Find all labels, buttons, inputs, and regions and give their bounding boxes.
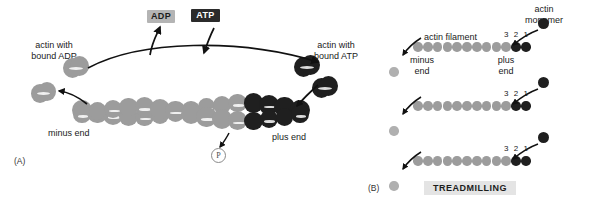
filament-subunit [413, 42, 423, 52]
filament-subunit [462, 42, 472, 52]
filament-subunit [443, 101, 453, 111]
panel-a-tag: (A) [14, 156, 25, 166]
arrow-to-adp [150, 27, 160, 55]
subunit-groove [109, 110, 120, 113]
filament-subunit [492, 101, 502, 111]
treadmilling-label: TREADMILLING [424, 181, 516, 195]
released-actin-monomer [389, 67, 399, 77]
filament-subunit [521, 156, 531, 166]
label-actin-filament: actin filament [424, 32, 477, 43]
released-actin-monomer [389, 181, 399, 191]
filament-subunit [501, 101, 511, 111]
arrow-phosphate-release [220, 133, 229, 147]
subunit-groove [233, 104, 245, 107]
subunit-number: 2 [512, 30, 520, 39]
filament-subunit [413, 156, 423, 166]
actin-subunit [73, 105, 90, 122]
label-plus-end-a: plus end [272, 132, 306, 143]
filament-subunit [492, 156, 502, 166]
subunit-number: 2 [512, 89, 520, 98]
subunit-groove [296, 115, 307, 118]
filament-subunit [511, 42, 521, 52]
filament-subunit [501, 42, 511, 52]
filament-subunit [433, 156, 443, 166]
subunit-number: 3 [502, 144, 510, 153]
actin-treadmilling-figure: (A) ADP ATP actin withbound ADP actin wi… [0, 0, 595, 208]
filament-subunit [472, 156, 482, 166]
filament-subunit [501, 156, 511, 166]
actin-subunit [260, 110, 278, 128]
filament-subunit [472, 42, 482, 52]
filament-subunit [423, 101, 433, 111]
incoming-actin-monomer [538, 77, 549, 88]
filament-subunit [482, 42, 492, 52]
subunit-number: 3 [502, 30, 510, 39]
incoming-actin-monomer [538, 18, 549, 29]
filament-subunit [433, 42, 443, 52]
filament-subunit [482, 156, 492, 166]
filament-subunit [433, 101, 443, 111]
phosphate-circle: P [211, 148, 226, 163]
subunit-number: 3 [502, 89, 510, 98]
arrow-monomer-cycle-right [88, 45, 318, 68]
filament-subunit [443, 156, 453, 166]
filament-subunit [452, 156, 462, 166]
incoming-actin-monomer [538, 132, 549, 143]
subunit-number: 1 [522, 30, 530, 39]
filament-subunit [511, 156, 521, 166]
filament-subunit [511, 101, 521, 111]
label-plus-end-b: plusend [491, 55, 521, 77]
filament-subunit [462, 101, 472, 111]
arrow-from-atp [204, 28, 214, 53]
filament-subunit [423, 42, 433, 52]
subunit-number: 1 [522, 89, 530, 98]
filament-subunit [521, 42, 531, 52]
filament-subunit [423, 156, 433, 166]
released-actin-monomer [389, 126, 399, 136]
filament-subunit [413, 101, 423, 111]
filament-subunit [452, 42, 462, 52]
filament-subunit [443, 42, 453, 52]
label-minus-end-b: minusend [404, 55, 440, 77]
subunit-groove [78, 115, 89, 118]
actin-subunit [291, 105, 308, 122]
label-minus-end-a: minus end [48, 128, 90, 139]
filament-subunit [452, 101, 462, 111]
filament-subunit [492, 42, 502, 52]
panel-b-tag: (B) [368, 183, 379, 193]
adp-box: ADP [147, 10, 175, 23]
subunit-number: 2 [512, 144, 520, 153]
filament-subunit [482, 101, 492, 111]
subunit-number: 1 [522, 144, 530, 153]
filament-subunit [462, 156, 472, 166]
atp-box: ATP [191, 9, 220, 22]
filament-subunit [521, 101, 531, 111]
filament-subunit [472, 101, 482, 111]
